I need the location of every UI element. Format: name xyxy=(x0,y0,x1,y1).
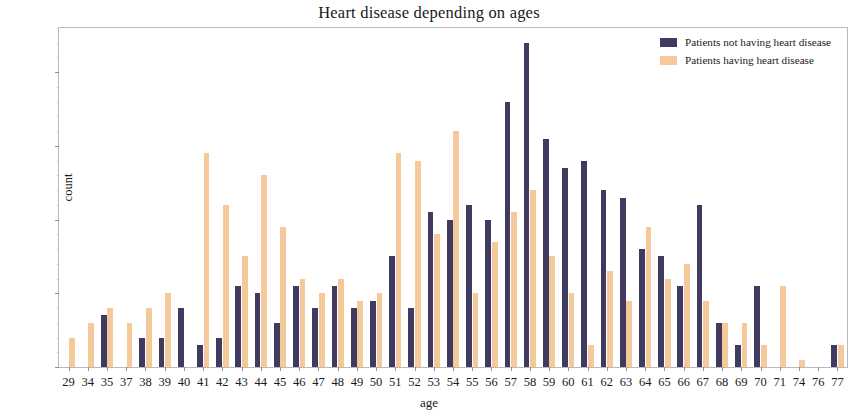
x-tick-mark xyxy=(453,367,454,371)
x-tick-mark xyxy=(837,367,838,371)
bar-having xyxy=(280,227,286,367)
chart-title: Heart disease depending on ages xyxy=(0,3,858,23)
bar-not-having xyxy=(216,338,222,367)
y-minor-tick xyxy=(57,264,59,265)
x-tick-label: 68 xyxy=(716,375,729,390)
bar-having xyxy=(223,205,229,367)
x-axis-label: age xyxy=(0,395,858,411)
x-tick-mark xyxy=(607,367,608,371)
x-tick-label: 62 xyxy=(601,375,614,390)
x-tick-label: 63 xyxy=(620,375,633,390)
x-tick-mark xyxy=(530,367,531,371)
bar-having xyxy=(165,293,171,367)
x-tick-mark xyxy=(395,367,396,371)
bar-having xyxy=(549,256,555,367)
bar-not-having xyxy=(255,293,261,367)
bar-having xyxy=(127,323,133,367)
legend-item[interactable]: Patients not having heart disease xyxy=(660,34,831,50)
x-tick-mark xyxy=(472,367,473,371)
bar-having xyxy=(511,212,517,367)
x-tick-mark xyxy=(338,367,339,371)
bar-not-having xyxy=(562,168,568,367)
bar-not-having xyxy=(235,286,241,367)
bar-having xyxy=(415,161,421,367)
x-tick-mark xyxy=(684,367,685,371)
x-tick-mark xyxy=(664,367,665,371)
x-tick-label: 34 xyxy=(82,375,95,390)
x-tick-label: 74 xyxy=(793,375,806,390)
x-tick-mark xyxy=(69,367,70,371)
bar-not-having xyxy=(428,212,434,367)
x-tick-mark xyxy=(203,367,204,371)
bar-having xyxy=(473,293,479,367)
x-tick-mark xyxy=(549,367,550,371)
bar-not-having xyxy=(543,139,549,367)
x-tick-mark xyxy=(222,367,223,371)
x-tick-mark xyxy=(818,367,819,371)
plot-area: count xyxy=(58,27,848,368)
y-minor-tick xyxy=(57,87,59,88)
x-tick-label: 65 xyxy=(658,375,671,390)
bar-having xyxy=(838,345,844,367)
x-tick-label: 48 xyxy=(331,375,344,390)
y-minor-tick xyxy=(57,338,59,339)
bar-not-having xyxy=(677,286,683,367)
bar-not-having xyxy=(389,256,395,367)
bar-not-having xyxy=(178,308,184,367)
x-tick-label: 50 xyxy=(370,375,383,390)
y-minor-tick xyxy=(57,190,59,191)
y-minor-tick xyxy=(57,57,59,58)
y-minor-tick xyxy=(57,308,59,309)
bar-not-having xyxy=(524,43,530,367)
x-tick-label: 60 xyxy=(562,375,575,390)
y-axis-label: count xyxy=(61,143,76,233)
bar-having xyxy=(626,301,632,367)
x-tick-mark xyxy=(184,367,185,371)
bar-not-having xyxy=(581,161,587,367)
x-tick-label: 52 xyxy=(408,375,421,390)
x-tick-mark xyxy=(722,367,723,371)
bar-not-having xyxy=(658,256,664,367)
y-minor-tick xyxy=(57,102,59,103)
bar-not-having xyxy=(754,286,760,367)
y-tick-mark xyxy=(55,367,59,368)
x-tick-mark xyxy=(434,367,435,371)
bar-having xyxy=(722,323,728,367)
x-tick-label: 59 xyxy=(543,375,556,390)
x-tick-label: 47 xyxy=(312,375,325,390)
x-tick-mark xyxy=(318,367,319,371)
bar-having xyxy=(453,131,459,367)
bar-not-having xyxy=(505,102,511,367)
bar-having xyxy=(396,153,402,367)
y-tick-mark xyxy=(55,72,59,73)
bar-not-having xyxy=(620,198,626,368)
x-tick-label: 39 xyxy=(158,375,171,390)
bar-not-having xyxy=(601,190,607,367)
legend-item[interactable]: Patients having heart disease xyxy=(660,52,831,68)
x-tick-mark xyxy=(376,367,377,371)
x-tick-mark xyxy=(588,367,589,371)
x-tick-label: 35 xyxy=(101,375,114,390)
bar-not-having xyxy=(332,286,338,367)
bar-having xyxy=(300,279,306,367)
bar-having xyxy=(588,345,594,367)
plot-inner xyxy=(59,28,847,367)
bar-not-having xyxy=(293,286,299,367)
x-tick-label: 77 xyxy=(831,375,844,390)
y-minor-tick xyxy=(57,279,59,280)
bar-having xyxy=(434,234,440,367)
x-tick-label: 29 xyxy=(62,375,75,390)
x-tick-mark xyxy=(299,367,300,371)
bar-having xyxy=(665,279,671,367)
x-tick-label: 45 xyxy=(274,375,287,390)
x-tick-label: 51 xyxy=(389,375,402,390)
chart-page: Heart disease depending on ages count ag… xyxy=(0,0,858,411)
bar-not-having xyxy=(447,220,453,367)
x-tick-label: 76 xyxy=(812,375,825,390)
bar-having xyxy=(338,279,344,367)
x-tick-mark xyxy=(88,367,89,371)
bar-not-having xyxy=(697,205,703,367)
legend-label-not-having: Patients not having heart disease xyxy=(685,36,831,48)
y-minor-tick xyxy=(57,116,59,117)
y-tick-mark xyxy=(55,220,59,221)
